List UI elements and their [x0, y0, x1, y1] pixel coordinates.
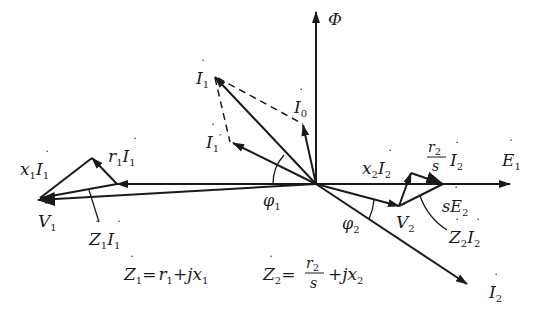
svg-text:˙: ˙: [128, 255, 134, 269]
svg-text:φ2: φ2: [342, 214, 360, 235]
svg-text:˙: ˙: [474, 218, 480, 232]
svg-text:˙: ˙: [43, 150, 49, 164]
v2-label: V2 ˙: [396, 203, 415, 234]
svg-text:Z1=r1+jx1: Z1=r1+jx1: [123, 264, 208, 286]
svg-text:˙: ˙: [93, 220, 99, 234]
phi1-label: φ1: [263, 191, 281, 212]
svg-text:r2: r2: [428, 139, 441, 157]
dashed-i1prime-shift: [215, 78, 230, 142]
se2-label: sE2 ˙: [442, 186, 468, 218]
svg-text:˙: ˙: [199, 59, 205, 73]
x1i1-label: x1I1 ˙: [20, 150, 49, 181]
svg-text:sE2: sE2: [442, 197, 468, 218]
i0-label: I0 ˙: [293, 88, 307, 119]
z1i1-leader: [89, 190, 99, 222]
svg-text:φ1: φ1: [263, 191, 281, 212]
svg-text:+jx2: +jx2: [328, 264, 363, 286]
svg-text:˙: ˙: [209, 123, 215, 137]
svg-text:˙: ˙: [115, 220, 121, 234]
r1i1-label: r1I1 ˙: [108, 137, 137, 168]
i2-label: I2 ˙: [488, 273, 502, 304]
svg-text:˙: ˙: [131, 137, 137, 151]
phi1-arc: [273, 155, 284, 184]
x2i2-label: x2I2 ˙: [362, 149, 392, 180]
i1-prime-label: I1′ ˙: [205, 123, 222, 154]
svg-text:˙: ˙: [453, 218, 459, 232]
phi2-label: φ2: [342, 214, 360, 235]
phi-label: Φ: [328, 9, 342, 29]
svg-text:˙: ˙: [267, 255, 273, 269]
v1-label: V1 ˙: [38, 202, 57, 233]
i0-phasor: [303, 125, 316, 184]
v1-phasor: [38, 184, 316, 200]
z2i2-label: Z2I2 ˙ ˙: [448, 218, 480, 249]
svg-text:E1: E1: [501, 150, 521, 172]
r2s-i2-label: r2 s I2 ˙: [427, 139, 463, 174]
svg-text:s: s: [432, 158, 439, 174]
z1i1-label: Z1I1 ˙ ˙: [88, 220, 121, 251]
i1-prime-phasor: [233, 143, 316, 184]
svg-text:˙: ˙: [452, 186, 458, 200]
svg-text:˙: ˙: [507, 139, 513, 153]
e1-label: E1 ˙: [501, 139, 521, 172]
dashed-i0-shift: [218, 78, 303, 124]
v2-phasor: [316, 184, 399, 206]
equation-z1: Z1=r1+jx1 ˙: [123, 255, 208, 286]
svg-text:˙: ˙: [42, 202, 48, 216]
svg-text:˙: ˙: [297, 88, 303, 102]
svg-text:˙: ˙: [386, 149, 392, 163]
svg-text:˙: ˙: [492, 273, 498, 287]
r2s-i2-phasor: [411, 173, 443, 184]
phasor-diagram: Φ E1 ˙ I1 ˙ I0 ˙ I1′ ˙ x1I1 ˙ r1I1 ˙ V1 …: [0, 0, 538, 313]
svg-text:˙: ˙: [400, 203, 406, 217]
equation-z2: Z2= ˙ r2 s +jx2: [262, 255, 363, 291]
svg-text:˙: ˙: [453, 141, 459, 155]
svg-text:s: s: [310, 275, 317, 291]
svg-text:r2: r2: [306, 255, 319, 273]
phi2-arc: [369, 200, 374, 219]
i1-label: I1 ˙: [195, 59, 209, 90]
